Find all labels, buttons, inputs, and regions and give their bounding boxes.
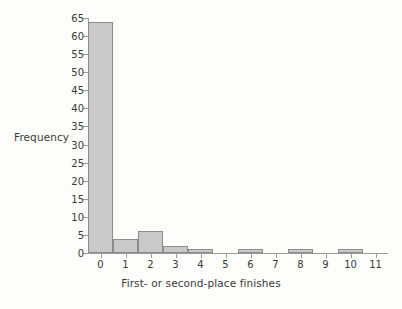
- x-tick-label-5: 5: [222, 259, 228, 270]
- x-tick-label-1: 1: [122, 259, 128, 270]
- y-tick-label: 65: [71, 13, 84, 24]
- bar-6: [238, 249, 263, 253]
- x-tick-label-8: 8: [297, 259, 303, 270]
- y-tick-label: 45: [71, 85, 84, 96]
- y-tick-label: 25: [71, 157, 84, 168]
- x-tick-label-0: 0: [97, 259, 103, 270]
- y-tick-label: 0: [78, 248, 84, 259]
- x-tick-mark-3: [176, 254, 177, 258]
- y-tick-label: 10: [71, 211, 84, 222]
- x-tick-mark-6: [251, 254, 252, 258]
- x-tick-mark-7: [276, 254, 277, 258]
- x-tick-mark-9: [326, 254, 327, 258]
- bar-10: [338, 249, 363, 253]
- y-tick-label: 15: [71, 193, 84, 204]
- x-tick-mark-2: [151, 254, 152, 258]
- x-axis-spine: [88, 253, 388, 254]
- bar-8: [288, 249, 313, 253]
- x-tick-label-2: 2: [147, 259, 153, 270]
- y-tick-label: 5: [78, 229, 84, 240]
- x-tick-label-3: 3: [172, 259, 178, 270]
- x-tick-label-9: 9: [322, 259, 328, 270]
- y-axis-title: Frequency: [14, 131, 69, 143]
- x-tick-label-10: 10: [344, 259, 357, 270]
- y-tick-label: 20: [71, 175, 84, 186]
- x-tick-mark-11: [376, 254, 377, 258]
- x-tick-label-11: 11: [369, 259, 382, 270]
- x-tick-mark-4: [201, 254, 202, 258]
- bar-4: [188, 249, 213, 253]
- bar-2: [138, 231, 163, 253]
- x-tick-mark-8: [301, 254, 302, 258]
- x-tick-mark-5: [226, 254, 227, 258]
- bar-1: [113, 239, 138, 253]
- x-tick-label-6: 6: [247, 259, 253, 270]
- histogram-figure: Frequency 05101520253035404550556065 012…: [0, 0, 402, 309]
- y-tick-label: 60: [71, 31, 84, 42]
- x-tick-mark-10: [351, 254, 352, 258]
- x-axis-title: First- or second-place finishes: [0, 277, 402, 289]
- y-tick-label: 50: [71, 67, 84, 78]
- bar-3: [163, 246, 188, 253]
- y-tick-label: 55: [71, 49, 84, 60]
- plot-area: 05101520253035404550556065 0123456789101…: [88, 18, 388, 254]
- x-tick-mark-0: [101, 254, 102, 258]
- x-tick-mark-1: [126, 254, 127, 258]
- y-tick-label: 30: [71, 139, 84, 150]
- x-tick-label-7: 7: [272, 259, 278, 270]
- bar-0: [88, 22, 113, 253]
- x-tick-label-4: 4: [197, 259, 203, 270]
- y-tick-label: 40: [71, 103, 84, 114]
- y-tick-label: 35: [71, 121, 84, 132]
